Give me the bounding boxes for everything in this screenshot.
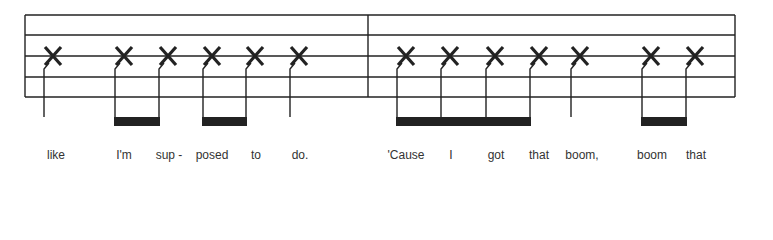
note-stem: [159, 63, 164, 119]
lyric-syllable: posed: [196, 148, 229, 162]
note-stem: [44, 63, 49, 117]
eighth-beam: [202, 117, 247, 126]
note-stem: [397, 63, 402, 119]
lyric-syllable: do.: [292, 148, 309, 162]
note-stem: [441, 63, 446, 119]
note-stem: [486, 63, 491, 119]
lyric-syllable: sup -: [156, 148, 183, 162]
note-stem: [530, 63, 535, 119]
note-stem: [642, 63, 647, 119]
lyric-syllable: I: [449, 148, 452, 162]
lyric-syllable: got: [488, 148, 505, 162]
note-stem: [203, 63, 208, 119]
note-stem: [686, 63, 691, 119]
lyric-syllable: that: [686, 148, 706, 162]
note-stem: [290, 63, 295, 117]
eighth-beam: [114, 117, 160, 126]
lyric-syllable: that: [529, 148, 549, 162]
eighth-beam: [396, 117, 531, 126]
lyric-syllable: boom: [637, 148, 667, 162]
lyric-syllable: 'Cause: [388, 148, 425, 162]
lyric-syllable: I'm: [116, 148, 132, 162]
note-stem: [115, 63, 120, 119]
lyric-syllable: like: [47, 148, 65, 162]
eighth-beam: [641, 117, 687, 126]
note-stem: [571, 63, 576, 117]
note-stem: [246, 63, 251, 119]
lyric-syllable: to: [251, 148, 261, 162]
lyric-syllable: boom,: [565, 148, 598, 162]
